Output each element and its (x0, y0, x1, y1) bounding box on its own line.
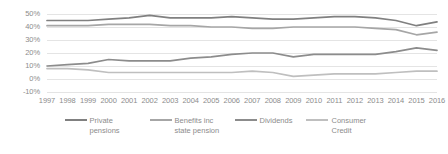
legend-item[interactable]: Private pensions (65, 116, 136, 135)
x-axis-tick: 2015 (405, 96, 427, 105)
series-line (47, 48, 437, 66)
x-axis-tick: 1997 (36, 96, 58, 105)
y-axis-tick: -10% (14, 87, 40, 96)
x-axis-tick: 2010 (303, 96, 325, 105)
legend-item[interactable]: Consumer Credit (306, 116, 377, 135)
y-axis-tick: 10% (14, 61, 40, 70)
series-line (47, 69, 437, 77)
legend-item-label: Dividends (260, 116, 293, 126)
legend-line-icon (150, 116, 172, 123)
y-axis-tick: 20% (14, 48, 40, 57)
legend-item[interactable]: Dividends (235, 116, 293, 126)
series-line (47, 24, 437, 34)
x-axis-tick: 1998 (57, 96, 79, 105)
legend-line-icon (235, 116, 257, 123)
legend-item-label: Private pensions (90, 116, 136, 135)
x-axis-tick: 2003 (159, 96, 181, 105)
x-axis-tick: 2001 (118, 96, 140, 105)
legend-item-label: Consumer Credit (331, 116, 377, 135)
x-axis-tick: 1999 (77, 96, 99, 105)
x-axis-tick: 2007 (241, 96, 263, 105)
x-axis-tick: 2013 (364, 96, 386, 105)
x-axis-tick: 2012 (344, 96, 366, 105)
x-axis-tick: 2008 (262, 96, 284, 105)
x-axis-tick: 2006 (221, 96, 243, 105)
y-axis-tick: 50% (14, 9, 40, 18)
x-axis-tick: 2005 (200, 96, 222, 105)
series-lines (47, 15, 437, 76)
legend-line-icon (65, 116, 87, 123)
x-axis-tick: 2016 (426, 96, 448, 105)
legend-item[interactable]: Benefits inc state pension (150, 116, 221, 135)
x-axis-tick: 2009 (282, 96, 304, 105)
legend-line-icon (306, 116, 328, 123)
x-axis-tick: 2014 (385, 96, 407, 105)
legend-item-label: Benefits inc state pension (175, 116, 221, 135)
x-axis-tick: 2000 (98, 96, 120, 105)
chart-legend: Private pensionsBenefits inc state pensi… (0, 116, 442, 154)
y-axis-tick: 40% (14, 22, 40, 31)
y-axis-tick: 30% (14, 35, 40, 44)
y-axis-tick: 0% (14, 74, 40, 83)
x-axis-tick: 2002 (139, 96, 161, 105)
x-axis-tick: 2004 (180, 96, 202, 105)
x-axis-tick: 2011 (323, 96, 345, 105)
